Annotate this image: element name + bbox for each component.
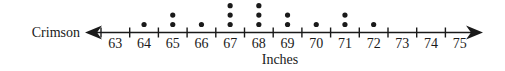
data-dot	[314, 22, 319, 27]
tick-label: 63	[108, 36, 122, 51]
data-dot	[371, 22, 376, 27]
data-dot	[170, 13, 175, 18]
data-dot	[256, 22, 261, 27]
data-dot	[141, 22, 146, 27]
tick-label: 71	[338, 36, 352, 51]
tick-label: 68	[252, 36, 266, 51]
tick-label: 66	[194, 36, 208, 51]
data-dot	[285, 22, 290, 27]
data-dot	[228, 3, 233, 8]
tick-label: 73	[395, 36, 409, 51]
row-label: Crimson	[32, 25, 80, 40]
data-dot	[285, 13, 290, 18]
dot-plot: Crimson 63646566676869707172737475 Inche…	[0, 0, 505, 71]
data-dot	[170, 22, 175, 27]
data-dot	[228, 22, 233, 27]
tick-label: 75	[453, 36, 467, 51]
data-dot	[228, 13, 233, 18]
data-dot	[342, 13, 347, 18]
tick-label: 74	[424, 36, 438, 51]
tick-labels: 63646566676869707172737475	[108, 36, 466, 51]
x-axis-label: Inches	[262, 52, 299, 67]
dots	[141, 3, 376, 27]
tick-label: 72	[367, 36, 381, 51]
tick-label: 70	[309, 36, 323, 51]
data-dot	[256, 3, 261, 8]
tick-label: 69	[281, 36, 295, 51]
tick-label: 65	[166, 36, 180, 51]
data-dot	[256, 13, 261, 18]
tick-label: 67	[223, 36, 237, 51]
data-dot	[199, 22, 204, 27]
data-dot	[342, 22, 347, 27]
tick-label: 64	[137, 36, 151, 51]
